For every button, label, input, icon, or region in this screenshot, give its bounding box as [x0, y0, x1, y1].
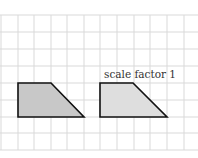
enlargement-diagram: scale factor 1 [0, 0, 198, 158]
scale-factor-label: scale factor 1 [104, 68, 176, 80]
